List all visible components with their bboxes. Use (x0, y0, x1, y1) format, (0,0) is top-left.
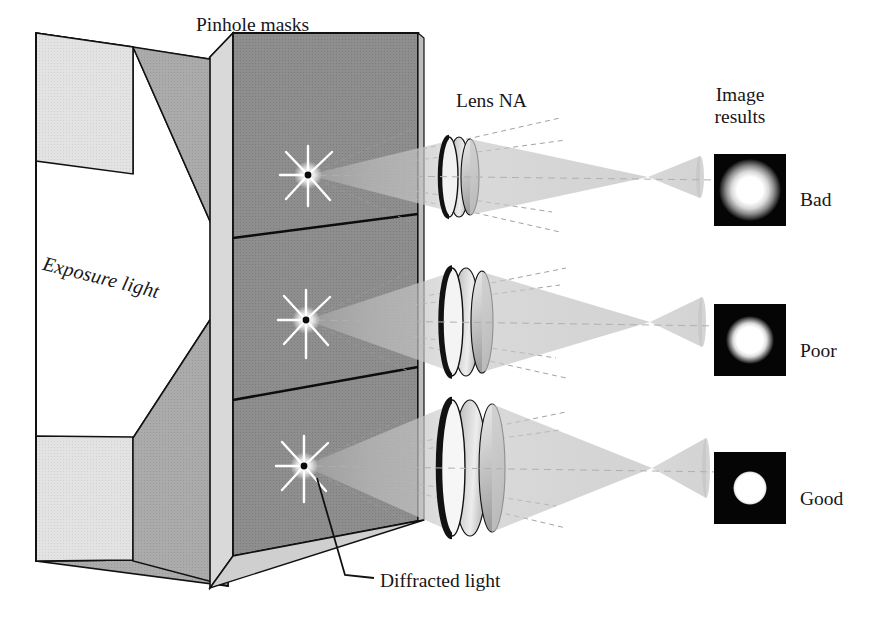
exposure-block-face-bottom-2 (36, 436, 133, 561)
figure-canvas: Exposure light Pinhole masks Lens NA Ima… (0, 0, 895, 636)
focus-cone-bad (648, 156, 700, 198)
image-result-good (714, 452, 786, 524)
focus-cone-good (652, 438, 706, 498)
pinhole-masks-label: Pinhole masks (196, 14, 309, 36)
image-result-bad (714, 154, 786, 226)
result-label-poor: Poor (800, 340, 837, 362)
exit-cone-bad (470, 139, 648, 215)
exposure-block-face-top-2 (36, 33, 133, 174)
image-results-line1: Image (716, 84, 765, 105)
image-result-poor (714, 304, 786, 376)
focus-cone-poor (650, 297, 702, 347)
exit-cone-good (492, 404, 652, 532)
mask-left-bevel (210, 33, 233, 588)
image-results-line2: results (715, 106, 766, 127)
exposure-light-block (36, 33, 236, 586)
image-results-label: Image results (697, 84, 783, 128)
exit-cone-poor (482, 272, 650, 372)
result-label-good: Good (800, 488, 843, 510)
result-label-bad: Bad (800, 189, 831, 211)
lens-na-label: Lens NA (456, 90, 527, 112)
diffracted-light-label: Diffracted light (380, 570, 500, 592)
